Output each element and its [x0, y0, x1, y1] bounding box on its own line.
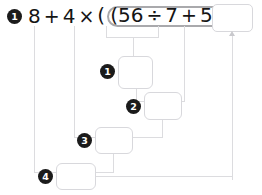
paren-open-inner: ( — [110, 3, 118, 27]
paren-open: ( — [97, 3, 105, 27]
connector-box4-to-answer — [96, 176, 233, 177]
connector-box2-down — [162, 120, 163, 137]
problem-number-bullet: 1 — [7, 9, 22, 24]
connector-4-down — [74, 26, 75, 137]
operator-divide: ÷ — [146, 4, 162, 26]
operator-plus-inner: + — [181, 4, 197, 26]
step-1-input[interactable] — [118, 56, 153, 89]
step-2-input[interactable] — [144, 92, 182, 120]
connector-into-box1 — [133, 37, 134, 56]
step-3-bullet: 3 — [77, 133, 92, 148]
connector-8-down — [34, 26, 35, 172]
term-5: 5 — [200, 3, 213, 27]
connector-step4-to-answer — [232, 36, 233, 180]
operator-plus: + — [44, 5, 60, 27]
connector-56-down — [106, 26, 107, 37]
connector-box3-down — [113, 154, 114, 172]
term-56: 56 — [118, 3, 143, 27]
term-8: 8 — [28, 4, 41, 28]
step-3-input[interactable] — [95, 127, 133, 154]
step-4-input[interactable] — [56, 163, 96, 190]
final-answer-input[interactable] — [212, 4, 253, 32]
term-4: 4 — [63, 4, 76, 28]
step-4-bullet: 4 — [38, 169, 53, 184]
term-7: 7 — [165, 3, 178, 27]
math-worksheet: 1 8 + 4 × ( ( 56 ÷ 7 + 5 ) ) = — [0, 0, 262, 195]
arrow-up-icon — [229, 31, 235, 36]
step-1-bullet: 1 — [100, 64, 115, 79]
step-2-bullet: 2 — [126, 99, 141, 114]
connector-7-down — [158, 26, 159, 37]
operator-times: × — [78, 5, 94, 27]
connector-5-down — [184, 26, 185, 101]
parenthesized-group-highlight: ( 56 ÷ 7 + 5 ) — [107, 6, 223, 27]
